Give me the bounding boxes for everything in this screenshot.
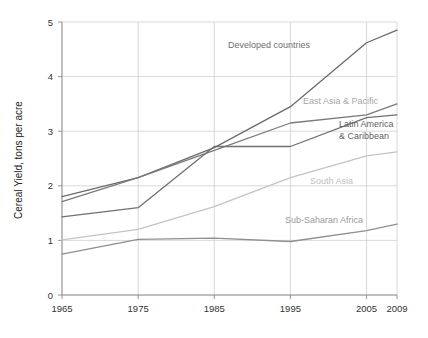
- cereal-yield-chart: 012345 196519751985199520052009 Develope…: [0, 0, 428, 338]
- y-tick-label: 2: [48, 180, 53, 191]
- y-tick-labels-group: 012345: [48, 17, 53, 301]
- gridlines-group: [62, 22, 397, 295]
- series-labels-group: Developed countriesEast Asia & PacificLa…: [228, 40, 394, 225]
- y-tick-label: 4: [48, 71, 53, 82]
- series-line: [62, 30, 397, 197]
- series-line: [62, 224, 397, 254]
- chart-svg: 012345 196519751985199520052009 Develope…: [0, 0, 428, 338]
- y-tick-label: 0: [48, 290, 53, 301]
- series-label: East Asia & Pacific: [303, 96, 379, 106]
- series-label: Sub-Saharan Africa: [285, 215, 363, 225]
- series-label: South Asia: [310, 176, 353, 186]
- x-tick-label: 1965: [51, 303, 72, 314]
- y-tick-label: 5: [48, 17, 53, 28]
- y-tick-label: 1: [48, 235, 53, 246]
- x-tick-label: 1985: [204, 303, 225, 314]
- series-label: Developed countries: [228, 40, 311, 50]
- y-axis-title: Cereal Yield, tons per acre: [13, 101, 24, 219]
- y-tick-label: 3: [48, 126, 53, 137]
- x-tick-label: 2009: [386, 303, 407, 314]
- x-tick-label: 1975: [128, 303, 149, 314]
- axes-group: [58, 22, 397, 299]
- series-label-line2: & Caribbean: [339, 131, 389, 141]
- series-label: Latin America: [339, 119, 394, 129]
- x-tick-labels-group: 196519751985199520052009: [51, 303, 407, 314]
- series-line: [62, 152, 397, 240]
- x-tick-label: 1995: [280, 303, 301, 314]
- x-tick-label: 2005: [356, 303, 377, 314]
